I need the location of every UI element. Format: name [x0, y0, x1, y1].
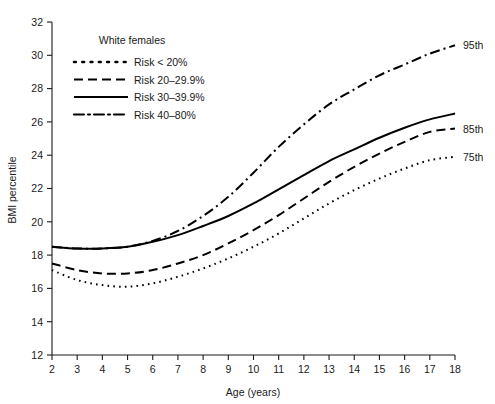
percentile-annotations: 95th85th75th — [463, 39, 484, 163]
percentile-label-95th: 95th — [463, 39, 484, 51]
bmi-percentile-chart: 1214161820222426283032 23456789101112131… — [0, 0, 495, 404]
chart-canvas: 1214161820222426283032 23456789101112131… — [0, 0, 495, 404]
x-tick-label: 6 — [150, 363, 156, 375]
x-tick-label: 15 — [374, 363, 386, 375]
legend: White females Risk < 20%Risk 20–29.9%Ris… — [74, 34, 205, 121]
percentile-label-75th: 75th — [463, 151, 484, 163]
x-tick-label: 5 — [125, 363, 131, 375]
legend-label: Risk < 20% — [134, 56, 187, 68]
x-tick-label: 12 — [298, 363, 310, 375]
y-tick-label: 28 — [31, 82, 43, 94]
legend-item-1: Risk < 20% — [74, 56, 187, 68]
y-tick-label: 20 — [31, 216, 43, 228]
y-tick-label: 30 — [31, 49, 43, 61]
legend-item-4: Risk 40–80% — [74, 109, 196, 121]
x-tick-label: 4 — [99, 363, 105, 375]
legend-title: White females — [99, 34, 166, 46]
series-curve-2 — [52, 129, 455, 274]
x-tick-label: 8 — [200, 363, 206, 375]
x-tick-label: 7 — [175, 363, 181, 375]
x-axis-ticks — [52, 355, 455, 360]
series-curves — [52, 45, 455, 286]
x-tick-label: 14 — [348, 363, 360, 375]
legend-label: Risk 40–80% — [134, 109, 196, 121]
legend-label: Risk 30–39.9% — [134, 91, 205, 103]
x-tick-label: 3 — [74, 363, 80, 375]
legend-items: Risk < 20%Risk 20–29.9%Risk 30–39.9%Risk… — [74, 56, 205, 121]
y-tick-label: 12 — [31, 349, 43, 361]
legend-label: Risk 20–29.9% — [134, 74, 205, 86]
y-tick-label: 32 — [31, 16, 43, 28]
x-tick-label: 13 — [323, 363, 335, 375]
y-tick-label: 22 — [31, 182, 43, 194]
x-tick-label: 9 — [225, 363, 231, 375]
series-curve-3 — [52, 114, 455, 249]
y-axis-title: BMI percentile — [6, 156, 18, 223]
x-axis-tick-labels: 23456789101112131415161718 — [49, 363, 461, 375]
x-tick-label: 17 — [424, 363, 436, 375]
y-axis-tick-labels: 1214161820222426283032 — [31, 16, 43, 361]
y-tick-label: 24 — [31, 149, 43, 161]
series-curve-1 — [52, 157, 455, 287]
legend-item-3: Risk 30–39.9% — [74, 91, 205, 103]
x-tick-label: 11 — [273, 363, 284, 375]
axes: 1214161820222426283032 23456789101112131… — [31, 16, 461, 375]
y-tick-label: 26 — [31, 116, 43, 128]
legend-item-2: Risk 20–29.9% — [74, 74, 205, 86]
percentile-label-85th: 85th — [463, 123, 484, 135]
x-tick-label: 10 — [248, 363, 260, 375]
x-tick-label: 16 — [399, 363, 411, 375]
series-curve-4 — [52, 45, 455, 248]
y-axis-ticks — [47, 22, 52, 355]
y-tick-label: 18 — [31, 249, 43, 261]
y-tick-label: 16 — [31, 282, 43, 294]
x-tick-label: 2 — [49, 363, 55, 375]
x-axis-title: Age (years) — [226, 386, 280, 398]
x-tick-label: 18 — [449, 363, 461, 375]
y-tick-label: 14 — [31, 316, 43, 328]
